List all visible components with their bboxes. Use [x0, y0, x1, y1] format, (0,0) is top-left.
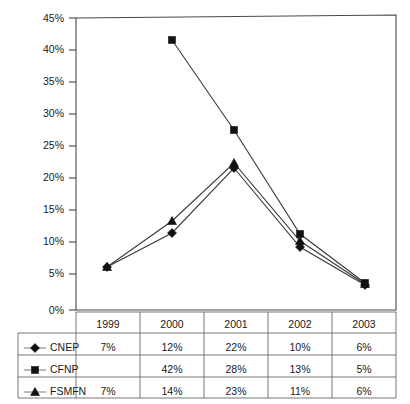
y-tick-label: 20% — [43, 171, 64, 183]
table-cell: 7% — [100, 385, 115, 397]
table-cell: 11% — [290, 385, 310, 397]
year-header: 1999 — [96, 318, 120, 330]
y-tick-label: 45% — [43, 12, 64, 24]
table-cell: 23% — [225, 385, 246, 397]
table-cell: 14% — [161, 385, 182, 397]
table-cell: 6% — [356, 341, 371, 353]
line-chart-with-data-table: 45% 40% 35% 30% 25% 20% 15% 10% 5% 0% — [0, 0, 410, 404]
table-cell: 5% — [356, 363, 371, 375]
y-tick-label: 30% — [43, 107, 64, 119]
table-cell: 12% — [161, 341, 182, 353]
series-legend-label-cnep: CNEP — [50, 341, 79, 353]
y-tick-label: 35% — [43, 75, 64, 87]
table-cell: 42% — [161, 363, 182, 375]
y-tick-label: 40% — [43, 43, 64, 55]
year-header: 2003 — [352, 318, 376, 330]
year-header: 2002 — [288, 318, 312, 330]
series-legend-label-cfnp: CFNP — [50, 363, 79, 375]
series-legend-label-fsmfn: FSMFN — [50, 385, 86, 397]
y-tick-label: 15% — [43, 203, 64, 215]
year-header: 2001 — [224, 318, 248, 330]
table-cell: 10% — [289, 341, 310, 353]
year-header: 2000 — [160, 318, 184, 330]
chart-canvas: 45% 40% 35% 30% 25% 20% 15% 10% 5% 0% — [0, 0, 410, 404]
table-cell: 22% — [225, 341, 246, 353]
y-tick-label: 10% — [43, 235, 64, 247]
y-tick-label: 25% — [43, 139, 64, 151]
table-cell: 7% — [100, 341, 115, 353]
table-cell: 6% — [356, 385, 371, 397]
table-cell: 28% — [225, 363, 246, 375]
y-tick-label: 5% — [49, 267, 64, 279]
y-tick-label: 0% — [49, 304, 64, 316]
table-cell: 13% — [289, 363, 310, 375]
